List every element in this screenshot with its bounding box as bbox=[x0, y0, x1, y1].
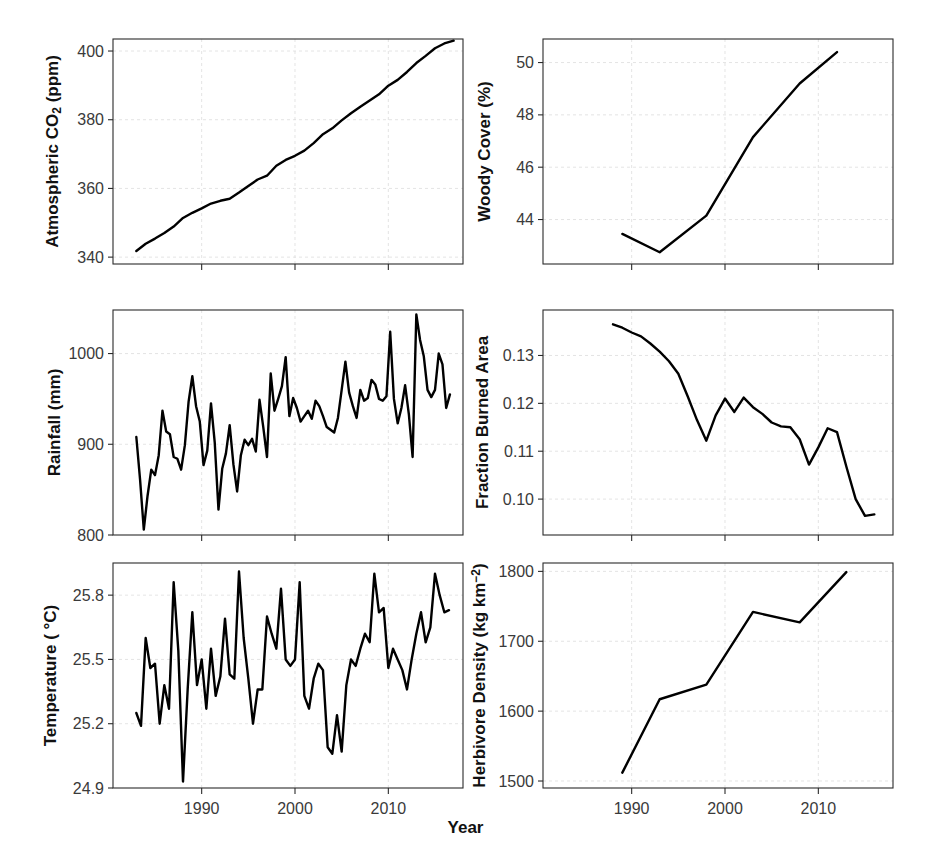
y-axis-woody_cover: 44464850 bbox=[516, 54, 543, 228]
y-tick-label: 360 bbox=[77, 180, 104, 197]
y-tick-label: 25.5 bbox=[73, 651, 104, 668]
x-tick-label: 1990 bbox=[614, 800, 650, 817]
y-axis-label-temperature: Temperature ( °C) bbox=[41, 563, 61, 788]
y-tick-label: 340 bbox=[77, 249, 104, 266]
gridlines-herbivore_density bbox=[543, 563, 893, 788]
y-axis-label-herbivore_density: Herbivore Density (kg km−2) bbox=[469, 563, 490, 788]
y-tick-label: 25.2 bbox=[73, 715, 104, 732]
y-axis-label-rainfall: Rainfall (mm) bbox=[45, 310, 65, 535]
y-tick-label: 24.9 bbox=[73, 780, 104, 797]
y-axis-temperature: 24.925.225.525.8 bbox=[73, 587, 113, 797]
y-tick-label: 380 bbox=[77, 111, 104, 128]
y-axis-label-burned_area: Fraction Burned Area bbox=[473, 310, 493, 535]
y-tick-label: 1700 bbox=[498, 633, 534, 650]
x-axis-burned_area bbox=[632, 535, 819, 541]
plot-frame-temperature bbox=[113, 563, 463, 788]
y-tick-label: 1600 bbox=[498, 703, 534, 720]
y-tick-label: 50 bbox=[516, 54, 534, 71]
data-series-woody_cover bbox=[622, 52, 837, 252]
x-axis-rainfall bbox=[202, 535, 389, 541]
panel-herbivore-density: 1500160017001800199020002010Herbivore De… bbox=[543, 563, 895, 822]
gridlines-woody_cover bbox=[543, 39, 893, 264]
y-tick-label: 48 bbox=[516, 106, 534, 123]
y-tick-label: 900 bbox=[77, 436, 104, 453]
gridlines-temperature bbox=[113, 563, 463, 788]
gridlines-burned_area bbox=[543, 310, 893, 535]
y-tick-label: 1800 bbox=[498, 563, 534, 580]
plot-area-rainfall: 8009001000 bbox=[113, 310, 465, 549]
y-tick-label: 0.10 bbox=[503, 491, 534, 508]
y-tick-label: 46 bbox=[516, 159, 534, 176]
y-axis-label-co2: Atmospheric CO2 (ppm) bbox=[43, 39, 64, 264]
y-tick-label: 1500 bbox=[498, 773, 534, 790]
data-series-rainfall bbox=[136, 315, 450, 530]
x-axis-co2 bbox=[202, 264, 389, 270]
plot-frame-burned_area bbox=[543, 310, 893, 535]
data-series-temperature bbox=[136, 572, 449, 782]
plot-frame-woody_cover bbox=[543, 39, 893, 264]
y-axis-label-woody_cover: Woody Cover (%) bbox=[475, 39, 495, 264]
y-tick-label: 0.13 bbox=[503, 347, 534, 364]
y-axis-burned_area: 0.100.110.120.13 bbox=[503, 347, 543, 508]
plot-frame-herbivore_density bbox=[543, 563, 893, 788]
y-axis-rainfall: 8009001000 bbox=[68, 345, 113, 543]
x-tick-label: 1990 bbox=[184, 800, 220, 817]
y-tick-label: 1000 bbox=[68, 345, 104, 362]
x-axis-label: Year bbox=[0, 818, 931, 838]
plot-area-temperature: 24.925.225.525.8199020002010 bbox=[113, 563, 465, 822]
y-tick-label: 44 bbox=[516, 211, 534, 228]
x-tick-label: 2010 bbox=[801, 800, 837, 817]
data-series-burned_area bbox=[613, 324, 874, 515]
panel-fraction-burned-area: 0.100.110.120.13Fraction Burned Area bbox=[543, 310, 895, 549]
y-axis-herbivore_density: 1500160017001800 bbox=[498, 563, 543, 790]
y-tick-label: 400 bbox=[77, 43, 104, 60]
y-axis-co2: 340360380400 bbox=[77, 43, 113, 266]
data-series-herbivore_density bbox=[622, 572, 846, 773]
x-axis-woody_cover bbox=[632, 264, 819, 270]
panel-temperature: 24.925.225.525.8199020002010Temperature … bbox=[113, 563, 465, 822]
x-axis-herbivore_density: 199020002010 bbox=[614, 788, 836, 817]
plot-frame-co2 bbox=[113, 39, 463, 264]
panel-woody-cover: 44464850Woody Cover (%) bbox=[543, 39, 895, 278]
plot-area-burned_area: 0.100.110.120.13 bbox=[543, 310, 895, 549]
y-tick-label: 0.11 bbox=[504, 443, 534, 460]
y-tick-label: 800 bbox=[77, 527, 104, 544]
plot-area-herbivore_density: 1500160017001800199020002010 bbox=[543, 563, 895, 822]
plot-area-co2: 340360380400 bbox=[113, 39, 465, 278]
panel-rainfall: 8009001000Rainfall (mm) bbox=[113, 310, 465, 549]
x-axis-temperature: 199020002010 bbox=[184, 788, 406, 817]
y-tick-label: 25.8 bbox=[73, 587, 104, 604]
x-tick-label: 2010 bbox=[371, 800, 407, 817]
y-tick-label: 0.12 bbox=[503, 395, 534, 412]
x-tick-label: 2000 bbox=[707, 800, 743, 817]
panel-atmospheric-co2: 340360380400Atmospheric CO2 (ppm) bbox=[113, 39, 465, 278]
x-tick-label: 2000 bbox=[277, 800, 313, 817]
multi-panel-figure: 340360380400Atmospheric CO2 (ppm) 444648… bbox=[0, 0, 931, 868]
gridlines-co2 bbox=[113, 39, 463, 264]
plot-area-woody_cover: 44464850 bbox=[543, 39, 895, 278]
